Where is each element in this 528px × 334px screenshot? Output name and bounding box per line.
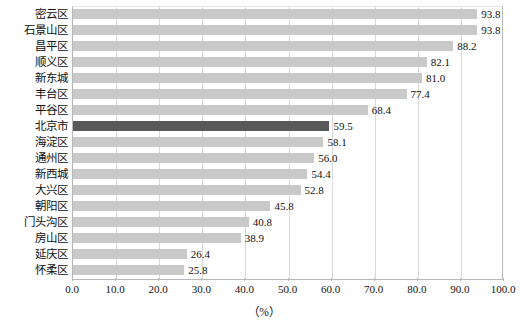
category-label: 怀柔区	[35, 262, 68, 278]
bar	[73, 89, 407, 99]
category-label: 门头沟区	[24, 214, 68, 230]
bar	[73, 57, 427, 67]
bar	[73, 105, 368, 115]
value-label: 93.8	[477, 22, 500, 38]
bar	[73, 233, 241, 243]
value-label: 58.1	[323, 134, 346, 150]
category-label: 延庆区	[35, 246, 68, 262]
bar-row: 石景山区93.8	[0, 22, 528, 38]
category-label: 通州区	[35, 150, 68, 166]
category-label: 大兴区	[35, 182, 68, 198]
category-label: 新东城	[35, 70, 68, 86]
bar-row: 海淀区58.1	[0, 134, 528, 150]
bar-row: 怀柔区25.8	[0, 262, 528, 278]
bar-row: 丰台区77.4	[0, 86, 528, 102]
bar	[73, 265, 184, 275]
bar-row: 北京市59.5	[0, 118, 528, 134]
bar-row: 新西城54.4	[0, 166, 528, 182]
value-label: 68.4	[368, 102, 391, 118]
category-label: 昌平区	[35, 38, 68, 54]
bar-row: 顺义区82.1	[0, 54, 528, 70]
bar-row: 朝阳区45.8	[0, 198, 528, 214]
category-label: 平谷区	[35, 102, 68, 118]
value-label: 25.8	[184, 262, 207, 278]
value-label: 59.5	[329, 118, 352, 134]
bar-row: 昌平区88.2	[0, 38, 528, 54]
bar-row: 延庆区26.4	[0, 246, 528, 262]
x-tick-label: 0.0	[65, 281, 79, 297]
x-tick-label: 30.0	[192, 281, 211, 297]
category-label: 顺义区	[35, 54, 68, 70]
value-label: 77.4	[407, 86, 430, 102]
x-axis: 0.010.020.030.040.050.060.070.080.090.01…	[0, 281, 528, 301]
x-tick-label: 70.0	[364, 281, 383, 297]
bar-rows: 密云区93.8石景山区93.8昌平区88.2顺义区82.1新东城81.0丰台区7…	[0, 6, 528, 280]
bar-row: 平谷区68.4	[0, 102, 528, 118]
bar	[73, 137, 323, 147]
bar	[73, 25, 477, 35]
category-label: 海淀区	[35, 134, 68, 150]
value-label: 40.8	[249, 214, 272, 230]
value-label: 82.1	[427, 54, 450, 70]
category-label: 石景山区	[24, 22, 68, 38]
bar-row: 大兴区52.8	[0, 182, 528, 198]
x-tick-label: 60.0	[321, 281, 340, 297]
bar	[73, 41, 453, 51]
value-label: 81.0	[422, 70, 445, 86]
bar-row: 房山区38.9	[0, 230, 528, 246]
x-tick-label: 10.0	[105, 281, 124, 297]
category-label: 新西城	[35, 166, 68, 182]
category-label: 丰台区	[35, 86, 68, 102]
value-label: 88.2	[453, 38, 476, 54]
bar-row: 密云区93.8	[0, 6, 528, 22]
bar	[73, 153, 314, 163]
value-label: 26.4	[187, 246, 210, 262]
bar	[73, 169, 307, 179]
bar	[73, 121, 329, 131]
x-tick-label: 100.0	[491, 281, 516, 297]
value-label: 56.0	[314, 150, 337, 166]
x-tick-label: 40.0	[235, 281, 254, 297]
bar	[73, 73, 422, 83]
bar	[73, 9, 477, 19]
x-tick-label: 90.0	[450, 281, 469, 297]
bar-row: 门头沟区40.8	[0, 214, 528, 230]
category-label: 密云区	[35, 6, 68, 22]
category-label: 朝阳区	[35, 198, 68, 214]
bar	[73, 249, 187, 259]
bar	[73, 201, 270, 211]
x-tick-label: 50.0	[278, 281, 297, 297]
bar-chart: 密云区93.8石景山区93.8昌平区88.2顺义区82.1新东城81.0丰台区7…	[0, 0, 528, 334]
x-tick-label: 20.0	[149, 281, 168, 297]
value-label: 45.8	[270, 198, 293, 214]
category-label: 房山区	[35, 230, 68, 246]
bar	[73, 185, 301, 195]
x-axis-title: （%）	[0, 303, 528, 319]
bar-row: 通州区56.0	[0, 150, 528, 166]
x-tick-label: 80.0	[407, 281, 426, 297]
value-label: 38.9	[241, 230, 264, 246]
value-label: 52.8	[301, 182, 324, 198]
category-label: 北京市	[35, 118, 68, 134]
bar-row: 新东城81.0	[0, 70, 528, 86]
bar	[73, 217, 249, 227]
value-label: 93.8	[477, 6, 500, 22]
value-label: 54.4	[307, 166, 330, 182]
